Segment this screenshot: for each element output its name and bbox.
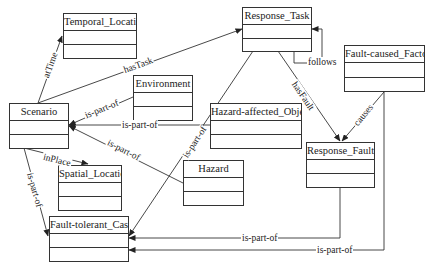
- uml-diagram: Temporal_Location Response_Task Fault-ca…: [0, 0, 429, 270]
- class-fault-caused-factor[interactable]: Fault-caused_Factor: [344, 45, 425, 92]
- class-response-fault[interactable]: Response_Fault: [306, 142, 375, 188]
- methods-section: [345, 78, 424, 92]
- attributes-section: [50, 234, 128, 248]
- methods-section: [211, 135, 301, 148]
- methods-section: [134, 107, 192, 120]
- label-follows: follows: [307, 57, 338, 67]
- class-name: Scenario: [10, 104, 68, 121]
- class-name: Fault-caused_Factor: [345, 46, 424, 63]
- methods-section: [64, 45, 136, 58]
- attributes-section: [134, 93, 192, 107]
- class-hazard[interactable]: Hazard: [183, 160, 244, 206]
- methods-section: [50, 248, 128, 261]
- methods-section: [10, 135, 68, 148]
- methods-section: [184, 192, 243, 205]
- attributes-section: [184, 178, 243, 192]
- attributes-section: [211, 121, 301, 135]
- methods-section: [243, 39, 311, 52]
- class-name: Environment: [134, 76, 192, 93]
- class-name: Fault-tolerant_Case: [50, 217, 128, 234]
- class-name: Hazard-affected_Object: [211, 104, 301, 121]
- attributes-section: [243, 25, 311, 39]
- label-factor-partof: is-part-of: [316, 245, 353, 255]
- label-hao-partof: is-part-of: [121, 120, 158, 130]
- class-hazard-affected-object[interactable]: Hazard-affected_Object: [210, 103, 302, 149]
- class-scenario[interactable]: Scenario: [9, 103, 69, 149]
- attributes-section: [10, 121, 68, 135]
- class-fault-tolerant-case[interactable]: Fault-tolerant_Case: [49, 216, 129, 262]
- class-name: Response_Fault: [307, 143, 374, 160]
- methods-section: [59, 197, 121, 210]
- attributes-section: [59, 183, 121, 197]
- methods-section: [307, 174, 374, 187]
- attributes-section: [345, 63, 424, 78]
- class-name: Spatial_Location: [59, 166, 121, 183]
- label-fault-partof: is-part-of: [241, 233, 278, 243]
- class-spatial-location[interactable]: Spatial_Location: [58, 165, 122, 211]
- class-temporal-location[interactable]: Temporal_Location: [63, 13, 137, 59]
- class-response-task[interactable]: Response_Task: [242, 7, 312, 52]
- class-name: Hazard: [184, 161, 243, 178]
- class-environment[interactable]: Environment: [133, 75, 193, 121]
- class-name: Response_Task: [243, 8, 311, 25]
- attributes-section: [307, 160, 374, 174]
- class-name: Temporal_Location: [64, 14, 136, 31]
- attributes-section: [64, 31, 136, 45]
